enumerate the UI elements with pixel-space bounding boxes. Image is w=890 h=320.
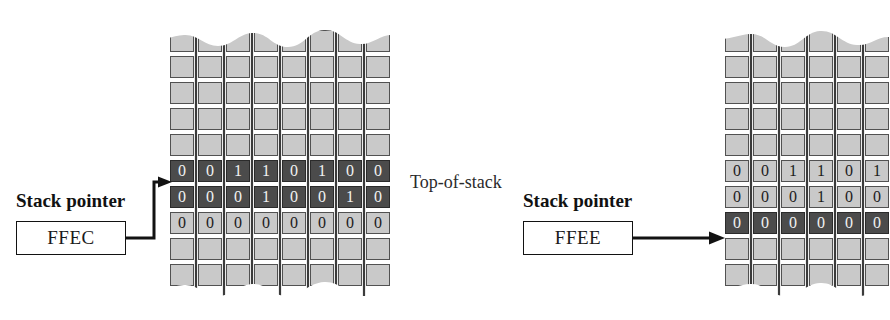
memory-cell: 0: [779, 262, 807, 288]
memory-cell: 0: [779, 184, 807, 210]
memory-bit: 0: [817, 215, 825, 231]
memory-bit: 0: [234, 215, 242, 231]
memory-cell: 0: [364, 106, 392, 132]
memory-cell: 0: [723, 210, 751, 236]
memory-cell: 1: [779, 158, 807, 184]
memory-cell: 0: [280, 28, 308, 54]
memory-cell: 0: [168, 158, 196, 184]
memory-cell: 1: [863, 158, 890, 184]
memory-bit: 1: [262, 163, 270, 179]
memory-bit: 0: [290, 163, 298, 179]
memory-cell: 0: [280, 236, 308, 262]
memory-cell: 0: [364, 80, 392, 106]
memory-bit: 1: [817, 189, 825, 205]
memory-cell: 0: [308, 28, 336, 54]
memory-bit: 0: [346, 215, 354, 231]
memory-cell: 0: [863, 54, 890, 80]
memory-cell: 0: [336, 158, 364, 184]
memory-cell: 0: [224, 80, 252, 106]
memory-cell: 0: [196, 262, 224, 288]
memory-cell: 0: [280, 158, 308, 184]
memory-cell: 0: [168, 54, 196, 80]
memory-cell: 0: [751, 262, 779, 288]
memory-cell: 0: [723, 54, 751, 80]
stack-pointer-box-left: FFEC: [16, 221, 126, 255]
memory-bit: 0: [873, 189, 881, 205]
memory-cell: 0: [779, 54, 807, 80]
memory-cell: 0: [308, 80, 336, 106]
memory-row: 000000: [723, 236, 890, 262]
memory-row: 00010010: [168, 184, 392, 210]
memory-cell: 0: [863, 210, 890, 236]
memory-cell: 0: [779, 210, 807, 236]
memory-cell: 0: [723, 132, 751, 158]
memory-cell: 0: [364, 184, 392, 210]
memory-cell: 0: [336, 28, 364, 54]
memory-bit: 0: [234, 189, 242, 205]
memory-cell: 0: [280, 80, 308, 106]
memory-cell: 0: [280, 184, 308, 210]
memory-cell: 0: [224, 184, 252, 210]
memory-bit: 1: [318, 163, 326, 179]
memory-cell: 0: [779, 106, 807, 132]
memory-cell: 0: [168, 210, 196, 236]
memory-bit: 1: [262, 189, 270, 205]
memory-cell: 0: [835, 106, 863, 132]
memory-row: 00000000: [168, 80, 392, 106]
memory-cell: 0: [252, 106, 280, 132]
memory-cell: 0: [863, 132, 890, 158]
top-of-stack-annotation: Top-of-stack: [410, 172, 502, 193]
memory-row: 000000: [723, 28, 890, 54]
memory-cell: 0: [863, 236, 890, 262]
memory-cell: 0: [224, 132, 252, 158]
memory-row: 000000: [723, 106, 890, 132]
memory-cell: 0: [835, 210, 863, 236]
memory-row: 00000000: [168, 236, 392, 262]
memory-row: 00000000: [168, 54, 392, 80]
memory-cell: 0: [723, 80, 751, 106]
memory-cell: 0: [835, 132, 863, 158]
memory-cell: 0: [807, 132, 835, 158]
memory-cell: 0: [336, 106, 364, 132]
memory-cell: 0: [364, 132, 392, 158]
memory-bit: 0: [733, 189, 741, 205]
memory-cell: 0: [364, 236, 392, 262]
stack-pointer-box-right: FFEE: [523, 221, 633, 255]
memory-grid-right: 0000000000000000000000000000000011010001…: [723, 28, 890, 296]
memory-bit: 0: [733, 215, 741, 231]
memory-cell: 0: [308, 236, 336, 262]
memory-bit: 0: [761, 163, 769, 179]
memory-cell: 0: [723, 28, 751, 54]
memory-cell: 0: [835, 184, 863, 210]
memory-cell: 0: [364, 262, 392, 288]
memory-cell: 0: [751, 54, 779, 80]
memory-cell: 0: [308, 106, 336, 132]
memory-cell: 0: [252, 132, 280, 158]
memory-bit: 0: [290, 215, 298, 231]
memory-cell: 0: [336, 80, 364, 106]
memory-cell: 0: [168, 106, 196, 132]
memory-cell: 1: [336, 184, 364, 210]
memory-cell: 0: [252, 236, 280, 262]
memory-row: 00000000: [168, 262, 392, 288]
memory-cell: 0: [196, 158, 224, 184]
memory-cell: 1: [807, 158, 835, 184]
memory-cell: 0: [252, 262, 280, 288]
memory-cell: 0: [863, 262, 890, 288]
memory-cell: 0: [224, 106, 252, 132]
memory-cell: 0: [224, 54, 252, 80]
memory-cell: 0: [751, 132, 779, 158]
memory-cell: 0: [252, 54, 280, 80]
figure-canvas: Stack pointer FFEC 000000000000000000000…: [0, 0, 890, 320]
memory-cell: 0: [835, 28, 863, 54]
memory-cell: 0: [336, 54, 364, 80]
memory-bit: 0: [845, 163, 853, 179]
memory-cell: 0: [751, 158, 779, 184]
memory-rows-right: 0000000000000000000000000000000011010001…: [723, 28, 890, 288]
memory-cell: 0: [196, 236, 224, 262]
memory-cell: 0: [779, 80, 807, 106]
memory-cell: 0: [224, 262, 252, 288]
memory-cell: 0: [835, 80, 863, 106]
memory-cell: 0: [835, 54, 863, 80]
memory-cell: 0: [863, 106, 890, 132]
